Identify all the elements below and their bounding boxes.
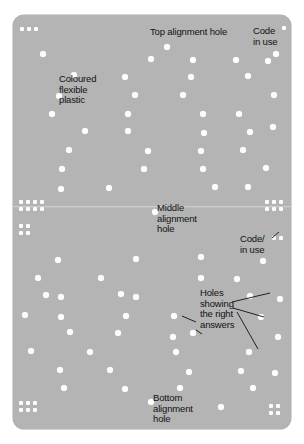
top-left-code-marks-dot	[34, 27, 38, 31]
punched-hole	[122, 386, 128, 392]
middle-left-code-block-dot	[26, 207, 30, 211]
punched-hole	[270, 124, 276, 130]
punched-hole	[198, 148, 204, 154]
middle-left-code-block-dot	[19, 207, 23, 211]
bottom-left-code-block-dot	[33, 408, 37, 412]
label-code-in-use-top: Code in use	[253, 26, 277, 47]
punched-hole	[148, 56, 154, 62]
bottom-left-code-block-dot	[19, 401, 23, 405]
punched-hole	[132, 92, 138, 98]
punched-hole	[122, 74, 128, 80]
punched-hole	[35, 275, 41, 281]
punched-hole	[141, 166, 147, 172]
punched-hole	[233, 57, 239, 63]
punched-hole	[200, 111, 206, 117]
punched-hole	[57, 367, 63, 373]
top-left-code-marks-dot	[27, 27, 31, 31]
punched-hole	[201, 130, 207, 136]
punched-hole	[133, 294, 139, 300]
punched-hole	[115, 330, 121, 336]
punched-hole	[49, 111, 55, 117]
figure-canvas: Top alignment hole Code in use Coloured …	[0, 0, 304, 444]
label-bottom-alignment-hole: Bottom alignment hole	[153, 393, 193, 425]
bottom-right-code-block-dot	[269, 411, 273, 415]
punched-hole	[58, 314, 64, 320]
bottom-left-code-block-dot	[33, 401, 37, 405]
middle-left-code-pair-dot	[19, 231, 23, 235]
top-right-code-marks-dot	[282, 26, 286, 30]
middle-right-code-block-dot	[272, 200, 276, 204]
punched-hole	[66, 147, 72, 153]
punched-hole	[28, 348, 34, 354]
punched-hole	[61, 385, 67, 391]
punched-hole	[200, 166, 206, 172]
punched-hole	[82, 128, 88, 134]
middle-right-code-block-dot	[279, 200, 283, 204]
punched-hole	[125, 111, 131, 117]
punched-hole	[123, 313, 129, 319]
label-holes-showing-right-answers: Holes showing the right answers	[200, 288, 234, 330]
punched-hole	[55, 257, 61, 263]
punched-hole	[234, 276, 240, 282]
punched-hole	[198, 254, 204, 260]
punched-hole	[245, 73, 251, 79]
middle-left-code-block-dot	[26, 200, 30, 204]
punched-hole	[258, 314, 264, 320]
card-crease-divider	[13, 206, 291, 208]
bottom-right-code-block-dot	[276, 404, 280, 408]
punched-hole	[188, 74, 194, 80]
punched-hole	[271, 92, 277, 98]
punched-hole	[212, 184, 218, 190]
middle-right-code-pair-dot	[279, 236, 283, 240]
middle-right-code-block-dot	[279, 207, 283, 211]
punched-hole	[250, 385, 256, 391]
punched-hole	[238, 368, 244, 374]
punched-hole	[164, 44, 170, 50]
bottom-left-code-block-dot	[26, 401, 30, 405]
middle-right-code-block-dot	[265, 200, 269, 204]
punched-hole	[58, 186, 64, 192]
label-code-in-use-bottom: Code/ in use	[240, 234, 265, 255]
punched-hole	[125, 128, 131, 134]
middle-left-code-block-dot	[33, 207, 37, 211]
middle-left-code-pair-dot	[19, 224, 23, 228]
punched-hole	[145, 148, 151, 154]
punched-hole	[245, 184, 251, 190]
punched-hole	[58, 294, 64, 300]
bottom-left-code-block-dot	[26, 408, 30, 412]
middle-left-code-block-dot	[19, 200, 23, 204]
punched-hole	[263, 165, 269, 171]
label-top-alignment-hole: Top alignment hole	[150, 27, 227, 38]
punched-hole	[236, 111, 242, 117]
punched-hole	[247, 293, 253, 299]
punched-hole	[43, 292, 49, 298]
top-left-code-marks-dot	[20, 27, 24, 31]
punched-hole	[177, 385, 183, 391]
punched-hole	[171, 313, 177, 319]
punched-hole	[106, 185, 112, 191]
punched-hole	[67, 329, 73, 335]
bottom-right-code-block-dot	[276, 411, 280, 415]
punched-hole	[272, 370, 278, 376]
punched-hole	[173, 349, 179, 355]
punched-hole	[40, 51, 46, 57]
punched-hole	[98, 275, 104, 281]
punched-hole	[59, 166, 65, 172]
punched-hole	[273, 51, 279, 57]
middle-left-code-pair-dot	[26, 231, 30, 235]
punched-hole	[107, 367, 113, 373]
punched-hole	[260, 258, 266, 264]
punched-hole	[218, 404, 224, 410]
punched-hole	[198, 275, 204, 281]
punched-hole	[133, 256, 139, 262]
punched-hole	[190, 57, 196, 63]
middle-left-code-block-dot	[40, 200, 44, 204]
middle-left-code-block-dot	[40, 207, 44, 211]
label-middle-alignment-hole: Middle alignment hole	[157, 203, 197, 235]
punched-hole	[170, 334, 176, 340]
middle-right-code-block-dot	[272, 207, 276, 211]
middle-left-code-pair-dot	[26, 224, 30, 228]
punched-hole	[190, 330, 196, 336]
punched-hole	[246, 349, 252, 355]
bottom-left-code-block-dot	[19, 408, 23, 412]
